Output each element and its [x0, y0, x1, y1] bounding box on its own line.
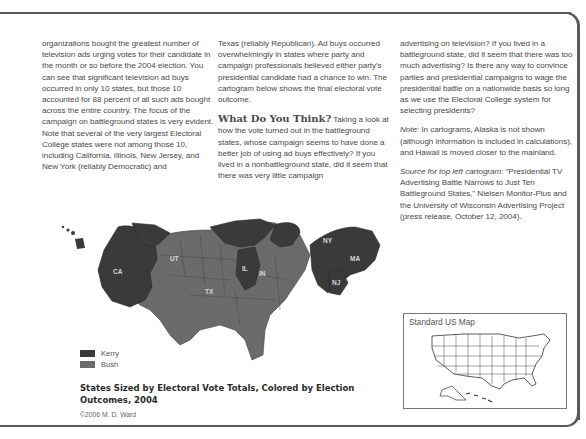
figure-caption: States Sized by Electoral Vote Totals, C…	[80, 383, 380, 406]
cartogram-map-icon	[60, 215, 390, 365]
cartogram-legend: Kerry Bush	[80, 348, 119, 370]
state-label-ut: UT	[170, 255, 179, 262]
standard-us-map-inset: Standard US Map	[403, 313, 567, 409]
bush-swatch-icon	[80, 361, 95, 368]
legend-label: Kerry	[101, 349, 119, 358]
source-label: Source for top left cartogram:	[400, 167, 503, 176]
us-map-icon	[404, 314, 568, 410]
note-paragraph: Note: In cartograms, Alaska is not shown…	[400, 124, 578, 158]
state-label-nj: NJ	[332, 279, 340, 286]
legend-label: Bush	[101, 360, 118, 369]
column-1-paragraph: organizations bought the greatest number…	[42, 38, 214, 172]
state-label-in: IN	[259, 270, 266, 277]
kerry-swatch-icon	[80, 350, 95, 357]
state-label-tx: TX	[205, 288, 213, 295]
column-3-paragraph: advertising on television? If you lived …	[400, 38, 578, 116]
state-label-ca: CA	[113, 268, 122, 275]
figure-credit: ©2006 M. D. Ward	[80, 411, 136, 418]
legend-item-bush: Bush	[80, 359, 119, 370]
state-label-ny: NY	[323, 237, 332, 244]
electoral-cartogram: CA UT TX IL IN NY MA NJ	[60, 215, 390, 365]
what-do-you-think-text: Taking a look at how the vote turned out…	[218, 115, 389, 180]
state-label-ma: MA	[350, 255, 360, 262]
column-2-paragraph: Texas (reliably Republican). Ad buys occ…	[218, 38, 393, 105]
page-frame-top	[0, 12, 571, 14]
source-paragraph: Source for top left cartogram: "Presiden…	[400, 166, 578, 222]
text-column-1: organizations bought the greatest number…	[42, 38, 214, 172]
what-do-you-think-heading: What Do You Think?	[218, 113, 331, 124]
what-do-you-think-paragraph: What Do You Think? Taking a look at how …	[218, 113, 393, 181]
legend-item-kerry: Kerry	[80, 348, 119, 359]
text-column-3: advertising on television? If you lived …	[400, 38, 578, 222]
text-column-2: Texas (reliably Republican). Ad buys occ…	[218, 38, 393, 181]
note-text: In cartograms, Alaska is not shown (alth…	[400, 125, 572, 156]
state-label-il: IL	[242, 265, 248, 272]
note-label: Note:	[400, 125, 419, 134]
page-frame-bottom	[0, 425, 555, 427]
